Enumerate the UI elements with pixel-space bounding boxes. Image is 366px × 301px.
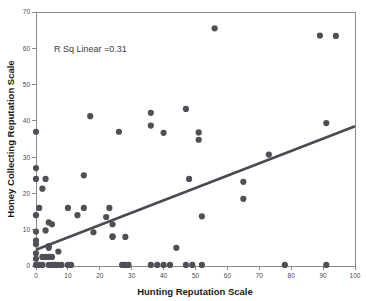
data-point: [109, 234, 115, 240]
x-tick-label: 50: [192, 272, 200, 279]
data-point: [122, 234, 128, 240]
data-point: [55, 248, 61, 254]
data-points: [33, 25, 339, 268]
data-point: [33, 256, 39, 262]
data-point: [49, 254, 55, 260]
data-point: [39, 186, 45, 192]
data-point: [167, 262, 173, 268]
data-point: [148, 262, 154, 268]
data-point: [36, 205, 42, 211]
regression-line: [36, 126, 355, 249]
data-point: [173, 245, 179, 251]
y-tick-label: 20: [23, 190, 31, 197]
y-tick-label: 70: [23, 8, 31, 15]
data-point: [33, 165, 39, 171]
plot-canvas: 0102030405060708090100 010203040506070 R…: [0, 0, 366, 301]
data-point: [42, 176, 48, 182]
data-point: [154, 262, 160, 268]
data-point: [103, 214, 109, 220]
data-point: [196, 137, 202, 143]
r-squared-annotation: R Sq Linear =0.31: [54, 44, 127, 54]
data-point: [106, 205, 112, 211]
data-point: [65, 205, 71, 211]
data-point: [33, 250, 39, 256]
data-point: [196, 129, 202, 135]
data-point: [186, 176, 192, 182]
data-point: [116, 129, 122, 135]
x-tick-label: 90: [319, 272, 327, 279]
x-tick-label: 60: [224, 272, 232, 279]
data-point: [125, 262, 131, 268]
data-point: [323, 120, 329, 126]
data-point: [212, 25, 218, 31]
x-tick-label: 20: [96, 272, 104, 279]
x-tick-label: 100: [350, 272, 361, 279]
y-tick-label: 50: [23, 81, 31, 88]
x-tick-label: 40: [160, 272, 168, 279]
x-tick-label: 70: [256, 272, 264, 279]
data-point: [33, 228, 39, 234]
data-point: [199, 262, 205, 268]
data-point: [317, 32, 323, 38]
x-axis-tick-labels: 0102030405060708090100: [34, 272, 361, 279]
data-point: [33, 176, 39, 182]
x-tick-label: 0: [34, 272, 38, 279]
data-point: [81, 172, 87, 178]
data-point: [68, 262, 74, 268]
y-axis-tick-labels: 010203040506070: [23, 8, 31, 269]
y-tick-label: 30: [23, 154, 31, 161]
x-tick-label: 80: [288, 272, 296, 279]
x-tick-label: 30: [128, 272, 136, 279]
data-point: [282, 262, 288, 268]
x-axis-title: Hunting Reputation Scale: [137, 286, 253, 297]
y-tick-label: 40: [23, 117, 31, 124]
data-point: [49, 221, 55, 227]
data-point: [199, 213, 205, 219]
data-point: [87, 113, 93, 119]
data-point: [240, 196, 246, 202]
data-point: [161, 262, 167, 268]
y-tick-label: 60: [23, 45, 31, 52]
data-point: [42, 227, 48, 233]
data-point: [90, 229, 96, 235]
data-point: [161, 130, 167, 136]
data-point: [148, 122, 154, 128]
data-point: [74, 212, 80, 218]
y-axis-title: Honey Collecting Reputation Scale: [5, 60, 16, 217]
data-point: [183, 106, 189, 112]
data-point: [33, 212, 39, 218]
data-point: [183, 262, 189, 268]
data-point: [58, 262, 64, 268]
data-point: [266, 152, 272, 158]
data-point: [148, 110, 154, 116]
data-point: [39, 262, 45, 268]
scatter-plot-figure: 0102030405060708090100 010203040506070 R…: [0, 0, 366, 301]
y-tick-label: 10: [23, 226, 31, 233]
y-tick-label: 0: [26, 262, 30, 269]
data-point: [81, 205, 87, 211]
data-point: [33, 129, 39, 135]
data-point: [240, 179, 246, 185]
data-point: [33, 241, 39, 247]
x-tick-label: 10: [64, 272, 72, 279]
data-point: [333, 33, 339, 39]
linear-fit-line: [36, 126, 355, 249]
data-point: [189, 262, 195, 268]
data-point: [323, 262, 329, 268]
